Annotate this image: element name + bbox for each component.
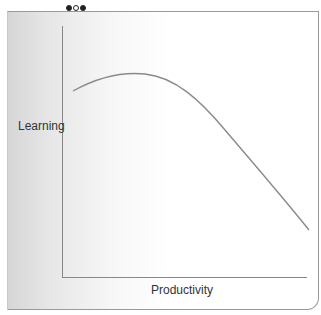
learning-productivity-plot bbox=[0, 0, 321, 315]
learning-curve bbox=[73, 74, 309, 230]
x-axis-label: Productivity bbox=[151, 283, 213, 297]
y-axis-label: Learning bbox=[18, 119, 65, 133]
